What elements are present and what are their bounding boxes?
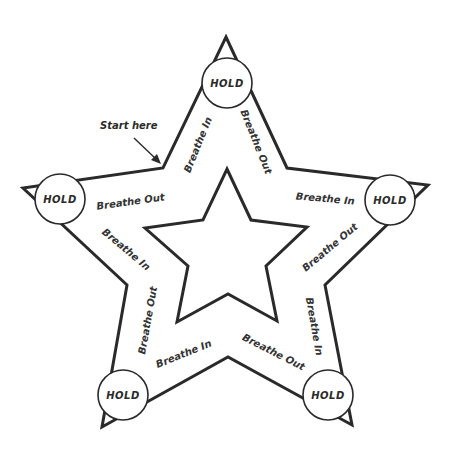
step-label-right-lower: Breathe In (304, 296, 325, 356)
step-label-bottom-right: Breathe Out (241, 331, 308, 373)
step-label-right-arm-bottom: Breathe Out (300, 220, 361, 273)
step-label-left-arm-top: Breathe Out (96, 191, 167, 212)
inner-star-outline (145, 169, 307, 322)
hold-node-left: HOLD (35, 174, 85, 224)
hold-label-bottom-right: HOLD (311, 390, 345, 401)
hold-node-top: HOLD (202, 58, 252, 108)
step-label-left-lower: Breathe Out (136, 284, 159, 355)
step-label-right-arm-top: Breathe In (295, 190, 355, 206)
step-label-bottom-left: Breathe In (154, 338, 213, 370)
hold-label-bottom-left: HOLD (106, 390, 140, 401)
star-breathing-diagram: Start here Breathe In Breathe Out Breath… (0, 0, 452, 456)
start-here-label: Start here (100, 120, 158, 131)
hold-node-bottom-left: HOLD (98, 370, 148, 420)
step-label-upper-left: Breathe In (182, 115, 214, 174)
start-arrow-icon (134, 138, 161, 164)
step-label-upper-right: Breathe Out (238, 108, 274, 177)
hold-label-top: HOLD (210, 78, 244, 89)
hold-node-right: HOLD (365, 175, 415, 225)
hold-node-bottom-right: HOLD (303, 370, 353, 420)
hold-label-right: HOLD (373, 195, 407, 206)
hold-label-left: HOLD (43, 194, 77, 205)
